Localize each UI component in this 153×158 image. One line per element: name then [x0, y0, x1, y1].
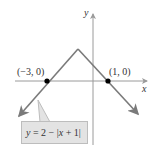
point-label-right: (1, 0)	[109, 66, 131, 77]
eq-end: + 1|	[63, 127, 81, 138]
point-label-left: (−3, 0)	[17, 66, 44, 77]
point-1-0	[105, 78, 110, 83]
equation-label-box: y = 2 − |x + 1|	[21, 121, 88, 144]
label-pointer	[38, 100, 50, 122]
point-neg3-0	[44, 78, 49, 83]
eq-middle: = 2 − |	[30, 127, 58, 138]
y-axis-label: y	[84, 7, 88, 18]
x-axis-label: x	[142, 83, 146, 94]
